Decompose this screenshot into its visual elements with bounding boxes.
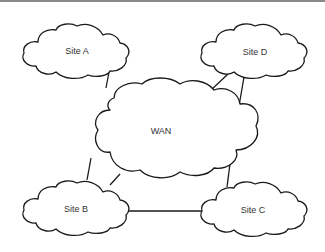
label-site-a: Site A [65, 46, 89, 56]
cloud-wan[interactable] [96, 78, 258, 178]
label-site-d: Site D [243, 47, 268, 57]
link-wan-site-b-1 [87, 158, 91, 180]
link-wan-site-b-2 [110, 174, 120, 185]
label-site-c: Site C [241, 205, 266, 215]
label-site-b: Site B [64, 204, 88, 214]
label-wan: WAN [151, 126, 172, 136]
diagram-canvas: Site A Site D WAN Site B Site C [0, 0, 325, 252]
